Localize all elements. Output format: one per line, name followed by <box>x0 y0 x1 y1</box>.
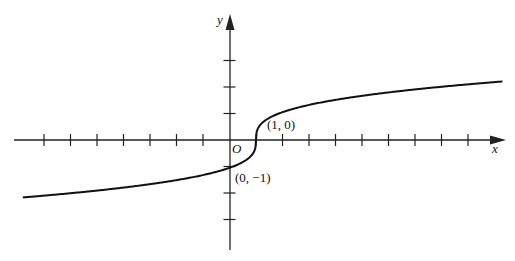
chart: x y O (1, 0) (0, −1) <box>0 0 515 261</box>
y-axis-arrow-icon <box>226 14 235 30</box>
x-axis-label: x <box>491 141 498 156</box>
origin-label: O <box>232 141 242 156</box>
point-label-0-neg1: (0, −1) <box>235 170 271 185</box>
y-axis-label: y <box>215 12 223 27</box>
point-label-1-0: (1, 0) <box>267 117 295 132</box>
